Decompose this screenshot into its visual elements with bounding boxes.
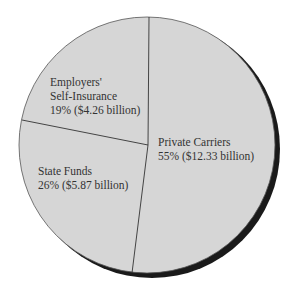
slice-label-state: State Funds 26% ($5.87 billion): [38, 164, 128, 192]
employers-label-value: 19% ($4.26 billion): [50, 103, 140, 117]
private-label-title: Private Carriers: [158, 135, 254, 149]
employers-label-title: Employers': [50, 75, 140, 89]
slice-label-employers: Employers' Self-Insurance 19% ($4.26 bil…: [50, 75, 140, 117]
private-label-value: 55% ($12.33 billion): [158, 149, 254, 163]
slice-label-private: Private Carriers 55% ($12.33 billion): [158, 135, 254, 163]
state-label-title: State Funds: [38, 164, 128, 178]
state-label-value: 26% ($5.87 billion): [38, 178, 128, 192]
employers-label-title2: Self-Insurance: [50, 89, 140, 103]
